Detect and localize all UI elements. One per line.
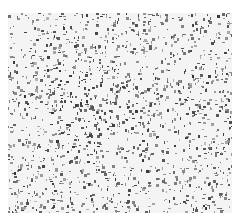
particle-canvas (8, 13, 232, 213)
micrograph-field (8, 13, 232, 213)
